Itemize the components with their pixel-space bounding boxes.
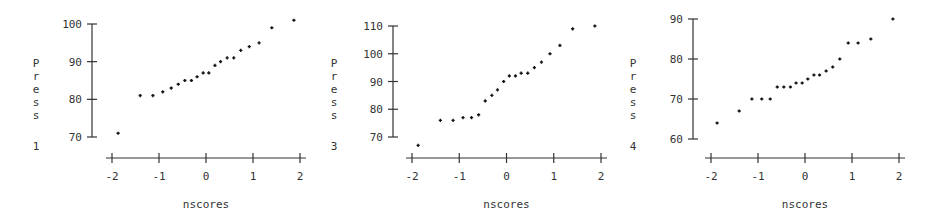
data-point [520,72,523,75]
data-point [571,27,574,30]
data-point [558,44,561,47]
data-point [825,69,828,72]
data-point [239,49,242,52]
y-tick-label: 70 [69,131,82,144]
y-tick-label: 110 [363,20,383,33]
y-tick-label: 80 [370,103,383,116]
data-point [161,90,164,93]
data-point [484,99,487,102]
data-point [782,85,785,88]
normal-probability-plots: 708090100-2-1012nscoresPress170809010011… [0,0,929,224]
x-tick-label: -2 [405,170,418,183]
data-points [716,17,895,124]
data-point [213,64,216,67]
y-tick-label: 60 [670,133,683,146]
x-tick-label: 2 [297,170,304,183]
data-point [760,97,763,100]
data-point [207,71,210,74]
data-point [593,24,596,27]
x-tick-label: -1 [152,170,165,183]
x-tick-label: 0 [503,170,510,183]
x-tick-label: 1 [849,170,856,183]
data-point [258,41,261,44]
data-point [806,77,809,80]
probability-plot-2: 708090100110-2-1012nscoresPress3 [331,20,607,211]
y-axis-title: Press3 [331,57,338,153]
y-axis-title-letter: P [331,57,338,70]
y-tick-label: 70 [670,93,683,106]
y-axis-title-number: 4 [630,140,637,153]
data-point [117,132,120,135]
data-point [801,81,804,84]
y-tick-label: 70 [370,131,383,144]
y-axis-title-letter: s [33,96,40,109]
data-point [831,65,834,68]
data-point [248,45,251,48]
y-tick-label: 90 [670,13,683,26]
y-axis-title: Press4 [630,57,637,153]
data-point [270,26,273,29]
y-axis-title-letter: r [33,70,40,83]
data-point [838,57,841,60]
x-tick-label: -1 [751,170,764,183]
data-point [776,85,779,88]
y-tick-label: 90 [69,56,82,69]
x-tick-label: 0 [203,170,210,183]
y-axis-title-letter: P [33,57,40,70]
data-point [202,71,205,74]
probability-plot-3: 60708090-2-1012nscoresPress4 [630,13,905,211]
data-point [869,37,872,40]
y-tick-label: 90 [370,76,383,89]
data-point [526,72,529,75]
x-axis-title: nscores [183,198,229,211]
y-axis-title-letter: e [33,83,40,96]
data-point [891,17,894,20]
x-tick-label: 0 [802,170,809,183]
x-tick-label: 1 [550,170,557,183]
data-point [452,119,455,122]
data-point [508,74,511,77]
data-point [502,80,505,83]
data-point [190,79,193,82]
data-point [232,56,235,59]
data-point [226,56,229,59]
y-axis-title-letter: s [331,96,338,109]
data-point [195,75,198,78]
y-axis-title-letter: s [331,109,338,122]
data-point [716,121,719,124]
data-point [533,66,536,69]
x-tick-label: -2 [105,170,118,183]
data-point [292,19,295,22]
data-point [490,94,493,97]
data-point [789,85,792,88]
y-axis-title-letter: e [630,83,637,96]
data-point [477,113,480,116]
y-axis-title-letter: r [630,70,637,83]
y-axis-title-letter: s [33,109,40,122]
y-axis-title-letter: r [331,70,338,83]
data-point [177,83,180,86]
data-point [818,73,821,76]
x-tick-label: 2 [896,170,903,183]
x-tick-label: -2 [704,170,717,183]
data-point [857,41,860,44]
data-point [151,94,154,97]
y-axis-title-letter: e [331,83,338,96]
probability-plot-1: 708090100-2-1012nscoresPress1 [33,18,306,211]
data-point [738,109,741,112]
y-axis-title-letter: s [630,109,637,122]
y-axis-title: Press1 [33,57,40,153]
x-axis-title: nscores [782,198,828,211]
data-point [812,73,815,76]
data-points [417,24,597,147]
data-point [769,97,772,100]
data-points [117,19,296,135]
data-point [514,74,517,77]
y-axis-title-number: 1 [33,140,40,153]
y-tick-label: 80 [69,93,82,106]
data-point [219,60,222,63]
data-point [183,79,186,82]
data-point [461,116,464,119]
x-tick-label: 2 [598,170,605,183]
data-point [170,86,173,89]
